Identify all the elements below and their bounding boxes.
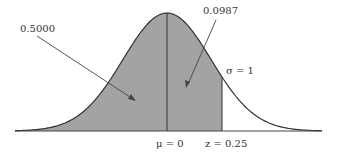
left-area-label: 0.5000 bbox=[20, 24, 55, 34]
mu-label: μ = 0 bbox=[156, 139, 184, 149]
sigma-label: σ = 1 bbox=[226, 66, 254, 76]
normal-curve-diagram: 0.5000 0.0987 σ = 1 μ = 0 z = 0.25 bbox=[0, 0, 337, 156]
right-area-label: 0.0987 bbox=[203, 6, 238, 16]
z-label: z = 0.25 bbox=[205, 139, 247, 149]
